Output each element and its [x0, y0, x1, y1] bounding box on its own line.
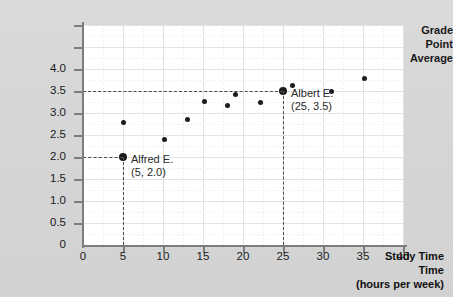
y-tick-label: 3.5 [22, 85, 66, 96]
y-tick-label: 4.0 [22, 63, 66, 74]
y-tick-mark [74, 91, 83, 93]
y-tick-mark [74, 179, 83, 181]
grid-h-minor [83, 80, 403, 81]
guide-line-vertical [283, 91, 284, 245]
x-tick-label: 10 [143, 250, 183, 262]
guide-line-horizontal [83, 91, 283, 92]
grid-h-minor [83, 36, 403, 37]
x-axis-title: Study Time [300, 249, 444, 263]
grid-h-minor [83, 190, 403, 191]
grid-h-minor [83, 58, 403, 59]
data-point[interactable] [121, 120, 126, 125]
data-point[interactable] [202, 99, 207, 104]
annotation-name-alfred: Alfred E. [131, 153, 173, 166]
y-tick-mark [74, 157, 83, 159]
y-tick-label: 2.5 [22, 129, 66, 140]
annotation-coords-alfred: (5, 2.0) [131, 166, 166, 179]
x-axis-title-line-2: Time [300, 263, 444, 277]
y-tick-mark [74, 69, 83, 71]
grid-h-major [83, 223, 403, 224]
y-tick-mark [74, 201, 83, 203]
grid-h-major [83, 47, 403, 48]
x-tick-label: 20 [223, 250, 263, 262]
y-tick-mark [74, 25, 83, 27]
y-tick-label: 0.5 [22, 217, 66, 228]
plot-area [83, 25, 403, 245]
guide-line-vertical [123, 157, 124, 245]
y-tick-label: 1.5 [22, 173, 66, 184]
annotation-name-albert: Albert E. [291, 87, 333, 100]
grid-h-major [83, 25, 403, 26]
data-point[interactable] [225, 103, 230, 108]
grid-h-minor [83, 102, 403, 103]
y-tick-mark [74, 113, 83, 115]
grid-h-minor [83, 212, 403, 213]
x-axis-units: (hours per week) [280, 277, 444, 291]
grid-h-major [83, 179, 403, 180]
guide-line-horizontal [83, 157, 123, 158]
grid-v-major [403, 25, 404, 245]
x-tick-label: 5 [103, 250, 143, 262]
x-tick-label: 25 [263, 250, 303, 262]
x-tick-label: 0 [63, 250, 103, 262]
grid-h-major [83, 135, 403, 136]
y-tick-mark [74, 223, 83, 225]
data-point[interactable] [233, 92, 238, 97]
grid-h-minor [83, 124, 403, 125]
grid-h-major [83, 113, 403, 114]
y-tick-mark [74, 47, 83, 49]
y-tick-label: 1.0 [22, 195, 66, 206]
y-tick-mark [74, 135, 83, 137]
data-point[interactable] [185, 117, 190, 122]
grid-h-minor [83, 234, 403, 235]
y-tick-label: 2.0 [22, 151, 66, 162]
grid-h-major [83, 201, 403, 202]
y-tick-label: 3.0 [22, 107, 66, 118]
x-tick-label: 15 [183, 250, 223, 262]
y-origin-label: 0 [22, 239, 66, 250]
grid-h-minor [83, 146, 403, 147]
grid-h-major [83, 69, 403, 70]
data-point[interactable] [162, 137, 167, 142]
data-point[interactable] [258, 100, 263, 105]
chart-page: Grade Point Average 0.51.01.52.02.53.03.… [0, 0, 453, 297]
annotation-coords-albert: (25, 3.5) [291, 100, 332, 113]
